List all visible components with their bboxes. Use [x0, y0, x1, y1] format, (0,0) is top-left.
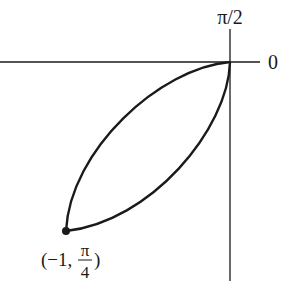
point-marker: [62, 227, 70, 235]
point-label-close-paren: ): [94, 249, 100, 271]
point-label-theta-numerator: π: [81, 241, 90, 260]
point-label-prefix: (−1,: [41, 249, 72, 271]
polar-axis-label: 0: [268, 51, 278, 73]
polar-diagram: π/2 0 (−1, π 4 ): [0, 0, 292, 290]
curve-lower-arc: [66, 62, 230, 231]
vertical-axis-label: π/2: [217, 6, 243, 28]
point-label-theta-denominator: 4: [81, 263, 90, 282]
curve-upper-arc: [66, 62, 230, 231]
